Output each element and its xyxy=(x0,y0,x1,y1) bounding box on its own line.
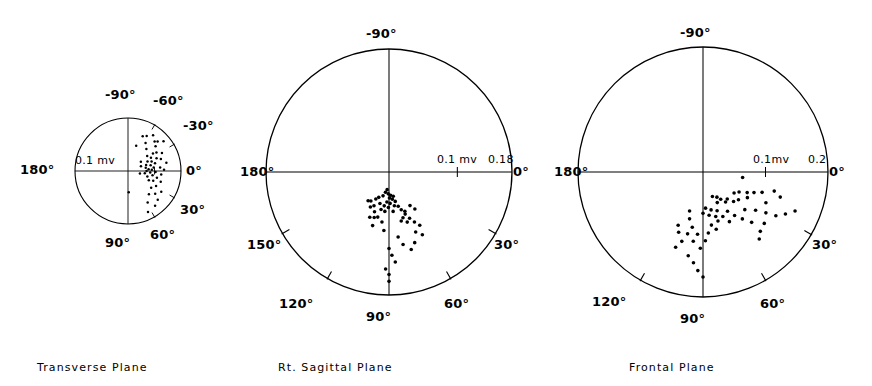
angle-label-transverse-0: -90° xyxy=(105,88,136,101)
data-point xyxy=(732,191,736,195)
angle-label-transverse-6: 90° xyxy=(105,236,130,249)
data-point xyxy=(674,245,678,249)
data-point xyxy=(764,201,768,205)
angle-label-rt-sagittal-3: 60° xyxy=(444,297,469,310)
angle-label-rt-sagittal-0: -90° xyxy=(366,27,397,40)
data-point xyxy=(774,214,778,218)
data-point xyxy=(715,209,719,213)
angle-label-frontal-5: 120° xyxy=(592,295,626,308)
angle-label-rt-sagittal-7: 180° xyxy=(240,165,274,178)
data-point xyxy=(750,221,754,225)
panel-caption-transverse: Transverse Plane xyxy=(37,362,148,373)
angle-label-frontal-0: -90° xyxy=(680,26,711,39)
data-point xyxy=(690,225,694,229)
angle-label-transverse-7: 180° xyxy=(20,163,54,176)
scale-label-rt-sagittal-0: 0.1 mv xyxy=(437,154,477,165)
data-point xyxy=(764,211,768,215)
data-point xyxy=(686,232,690,236)
data-point xyxy=(699,246,703,250)
data-point xyxy=(754,208,758,212)
angle-label-frontal-4: 90° xyxy=(680,312,705,325)
data-point xyxy=(680,240,684,244)
data-point xyxy=(696,269,700,273)
angle-tick-30 xyxy=(804,231,812,236)
data-point xyxy=(759,230,763,234)
data-point xyxy=(715,195,719,199)
data-point xyxy=(743,208,747,212)
data-point xyxy=(704,206,708,210)
angle-label-transverse-5: 60° xyxy=(150,228,175,241)
scale-label-frontal-1: 0.2 xyxy=(808,154,826,165)
panel-frontal xyxy=(0,0,872,386)
angle-label-rt-sagittal-6: 150° xyxy=(247,238,281,251)
angle-tick-120 xyxy=(640,273,645,281)
data-point xyxy=(737,198,741,202)
angle-label-rt-sagittal-2: 30° xyxy=(494,238,519,251)
data-point xyxy=(737,190,741,194)
data-point xyxy=(686,254,690,258)
data-point xyxy=(704,239,708,243)
data-point xyxy=(725,197,729,201)
angle-label-transverse-1: -60° xyxy=(153,94,184,107)
data-point xyxy=(715,201,719,205)
figure-root: 0.1 mv-90°-60°-30°0°30°60°90°180°Transve… xyxy=(0,0,872,386)
data-point xyxy=(691,240,695,244)
data-point xyxy=(778,195,782,199)
panel-caption-frontal: Frontal Plane xyxy=(629,362,715,373)
angle-label-frontal-1: 0° xyxy=(829,165,845,178)
data-point xyxy=(732,200,736,204)
angle-label-rt-sagittal-4: 90° xyxy=(366,310,391,323)
data-point xyxy=(772,189,776,193)
data-point xyxy=(741,217,745,221)
angle-label-transverse-2: -30° xyxy=(183,119,214,132)
angle-label-rt-sagittal-5: 120° xyxy=(279,297,313,310)
data-point xyxy=(726,209,730,213)
data-point xyxy=(716,219,720,223)
data-point xyxy=(688,217,692,221)
scale-label-transverse-0: 0.1 mv xyxy=(75,155,115,166)
data-point xyxy=(719,197,723,201)
scale-label-rt-sagittal-1: 0.18 xyxy=(488,154,514,165)
scale-label-frontal-0: 0.1mv xyxy=(753,154,789,165)
data-point xyxy=(688,209,692,213)
data-point xyxy=(762,222,766,226)
angle-label-transverse-3: 0° xyxy=(186,164,202,177)
polar-plot-frontal xyxy=(0,0,872,386)
angle-label-transverse-4: 30° xyxy=(180,203,205,216)
data-point xyxy=(696,232,700,236)
data-point xyxy=(745,191,749,195)
panel-caption-rt-sagittal: Rt. Sagittal Plane xyxy=(278,362,393,373)
data-point xyxy=(724,200,728,204)
data-point xyxy=(701,211,705,215)
angle-tick-60 xyxy=(762,273,767,281)
angle-label-frontal-3: 60° xyxy=(760,297,785,310)
data-point xyxy=(707,214,711,218)
data-point xyxy=(714,215,718,219)
data-point xyxy=(711,195,715,199)
angle-label-frontal-6: 180° xyxy=(554,165,588,178)
data-point xyxy=(714,227,718,231)
data-point xyxy=(701,275,705,279)
data-point xyxy=(676,223,680,227)
data-point xyxy=(793,209,797,213)
data-point xyxy=(709,208,713,212)
data-point xyxy=(721,215,725,219)
data-point xyxy=(733,214,737,218)
data-point xyxy=(692,261,696,265)
data-point xyxy=(728,220,732,224)
data-point xyxy=(757,237,761,241)
data-point xyxy=(760,191,764,195)
angle-label-frontal-2: 30° xyxy=(812,238,837,251)
data-point xyxy=(707,231,711,235)
data-point xyxy=(741,176,745,180)
data-point xyxy=(677,230,681,234)
data-point xyxy=(746,196,750,200)
data-point xyxy=(752,191,756,195)
angle-label-rt-sagittal-1: 0° xyxy=(513,165,529,178)
data-point xyxy=(784,212,788,216)
data-point xyxy=(710,223,714,227)
